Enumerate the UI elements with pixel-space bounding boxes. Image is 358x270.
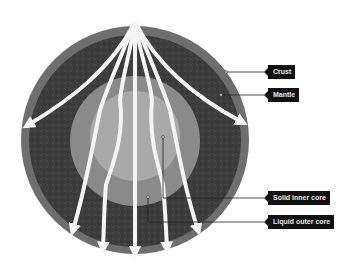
earth-layers-diagram xyxy=(0,0,358,270)
inner-core-dot xyxy=(162,136,165,139)
label-crust: Crust xyxy=(268,65,295,79)
crust-dot xyxy=(225,71,228,74)
label-liquid-outer-core: Liquid outer core xyxy=(268,215,334,229)
mantle-dot xyxy=(220,94,223,97)
label-solid-inner-core: Solid inner core xyxy=(268,191,330,205)
label-mantle: Mantle xyxy=(268,88,299,102)
outer-core-dot xyxy=(147,196,150,199)
